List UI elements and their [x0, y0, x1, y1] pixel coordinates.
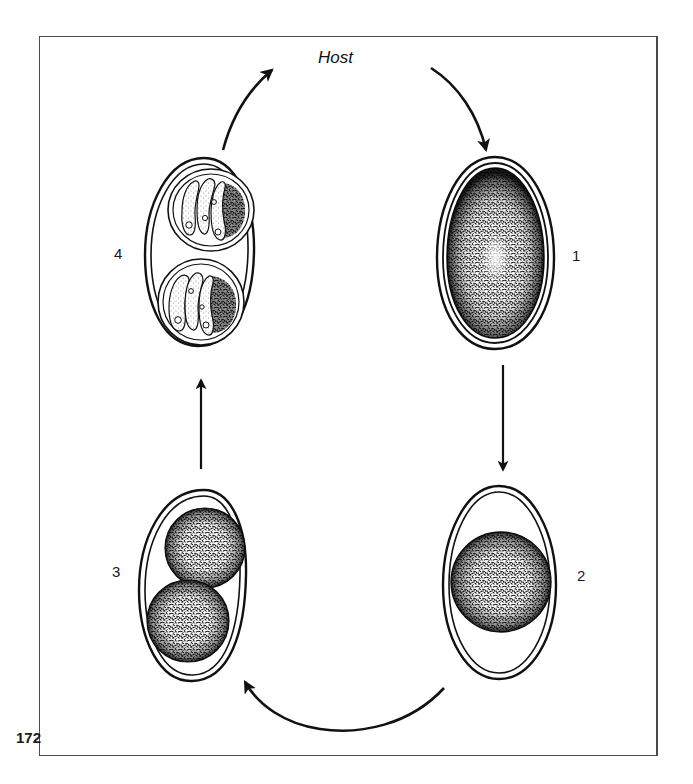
arrow-stage2-to-stage3 — [245, 682, 444, 731]
oocyst-stage-1 — [437, 157, 554, 349]
sporocyst-lower — [158, 259, 244, 345]
figure-canvas: 172 Host 4 1 3 2 — [0, 0, 693, 784]
arrow-host-to-stage1 — [431, 68, 486, 150]
arrow-stage4-to-host — [223, 70, 272, 150]
oocyst-stage-3 — [139, 490, 246, 681]
oocyst-stage-4 — [145, 158, 254, 346]
life-cycle-diagram — [0, 0, 693, 784]
oocyst-stage-2 — [443, 486, 556, 679]
sporocyst-upper — [168, 169, 254, 251]
